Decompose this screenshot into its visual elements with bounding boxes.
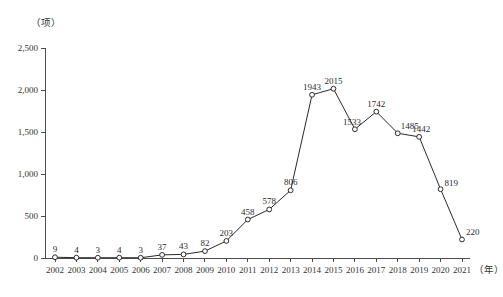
- x-tick-label: 2015: [324, 265, 343, 275]
- data-point-label: 37: [158, 242, 168, 252]
- x-tick-label: 2008: [175, 265, 194, 275]
- data-point-label: 819: [445, 178, 459, 188]
- data-point-label: 43: [179, 241, 189, 251]
- line-chart: 05001,0001,5002,0002,5002002200320042005…: [0, 0, 503, 297]
- x-tick-label: 2012: [260, 265, 278, 275]
- x-tick-label: 2011: [239, 265, 257, 275]
- x-tick-label: 2009: [196, 265, 215, 275]
- x-tick-label: 2006: [132, 265, 151, 275]
- y-axis-unit-label: （项）: [31, 17, 61, 28]
- data-point-label: 458: [241, 207, 255, 217]
- x-tick-label: 2021: [453, 265, 471, 275]
- y-tick-label: 2,000: [18, 85, 39, 95]
- x-tick-label: 2017: [367, 265, 386, 275]
- data-point-marker[interactable]: [288, 188, 293, 193]
- data-point-marker[interactable]: [331, 86, 336, 91]
- data-point-marker[interactable]: [245, 217, 250, 222]
- x-tick-label: 2004: [89, 265, 108, 275]
- data-point-marker[interactable]: [417, 134, 422, 139]
- data-point-label: 578: [262, 196, 276, 206]
- data-point-marker[interactable]: [160, 252, 165, 257]
- data-point-marker[interactable]: [74, 255, 79, 260]
- data-point-label: 1742: [367, 99, 385, 109]
- data-point-marker[interactable]: [95, 255, 100, 260]
- y-tick-label: 2,500: [18, 43, 39, 53]
- data-point-marker[interactable]: [267, 207, 272, 212]
- x-tick-label: 2010: [217, 265, 236, 275]
- y-tick-label: 1,000: [18, 169, 39, 179]
- data-point-marker[interactable]: [224, 239, 229, 244]
- x-tick-label: 2007: [153, 265, 172, 275]
- y-tick-label: 0: [34, 253, 39, 263]
- data-point-label: 2015: [324, 76, 343, 86]
- data-point-marker[interactable]: [352, 127, 357, 132]
- y-tick-label: 1,500: [18, 127, 39, 137]
- x-tick-label: 2014: [303, 265, 322, 275]
- data-point-label: 1533: [343, 117, 362, 127]
- data-point-marker[interactable]: [438, 187, 443, 192]
- data-point-label: 1442: [412, 124, 430, 134]
- x-tick-label: 2005: [110, 265, 129, 275]
- data-point-marker[interactable]: [460, 237, 465, 242]
- data-point-label: 82: [200, 238, 209, 248]
- x-tick-label: 2018: [389, 265, 408, 275]
- data-point-marker[interactable]: [374, 109, 379, 114]
- x-tick-label: 2019: [410, 265, 429, 275]
- data-point-label: 9: [53, 244, 58, 254]
- data-point-label: 3: [138, 245, 143, 255]
- x-tick-label: 2002: [46, 265, 64, 275]
- data-point-label: 220: [466, 227, 480, 237]
- y-tick-label: 500: [25, 211, 39, 221]
- data-point-label: 3: [96, 245, 101, 255]
- data-point-marker[interactable]: [181, 252, 186, 257]
- x-tick-label: 2016: [346, 265, 365, 275]
- chart-canvas: 05001,0001,5002,0002,5002002200320042005…: [0, 0, 503, 297]
- data-point-label: 806: [284, 177, 298, 187]
- x-axis-unit-label: （年）: [474, 264, 503, 275]
- series-line: [55, 89, 462, 258]
- x-tick-label: 2020: [432, 265, 451, 275]
- data-point-marker[interactable]: [203, 249, 208, 254]
- data-point-marker[interactable]: [138, 255, 143, 260]
- data-point-label: 203: [220, 228, 234, 238]
- x-tick-label: 2013: [282, 265, 301, 275]
- data-point-marker[interactable]: [117, 255, 122, 260]
- data-point-marker[interactable]: [395, 131, 400, 136]
- data-point-label: 1943: [303, 82, 322, 92]
- data-point-marker[interactable]: [53, 255, 58, 260]
- data-point-marker[interactable]: [310, 92, 315, 97]
- data-point-label: 4: [74, 245, 79, 255]
- x-tick-label: 2003: [67, 265, 86, 275]
- data-point-label: 4: [117, 245, 122, 255]
